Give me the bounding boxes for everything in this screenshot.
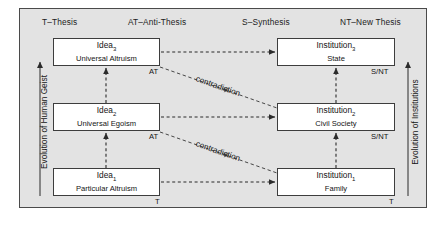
connector-layer bbox=[0, 0, 446, 226]
diagram-canvas: T–Thesis AT–Anti-Thesis S–Synthesis NT–N… bbox=[0, 0, 446, 226]
